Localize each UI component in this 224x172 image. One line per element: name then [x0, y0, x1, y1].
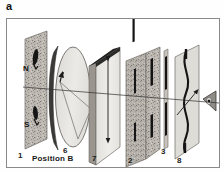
- component-speckled-plate-pair: [126, 19, 160, 167]
- figure-frame: N S 1 6 Position B 7 2 3 8: [6, 18, 220, 168]
- component-disk-lens: [49, 46, 91, 150]
- figure-panel: a: [0, 0, 224, 172]
- north-pole-label: N: [23, 65, 29, 73]
- panel-letter: a: [6, 1, 12, 12]
- component-label-2: 2: [128, 157, 132, 165]
- component-label-7: 7: [92, 155, 96, 163]
- position-b-label: Position B: [32, 155, 74, 163]
- component-magnet-plate: [25, 31, 47, 149]
- component-wavy-line-plate: [175, 45, 199, 159]
- observer-eye: [203, 91, 216, 111]
- component-label-1: 1: [18, 152, 22, 160]
- component-label-8: 8: [177, 157, 181, 165]
- component-label-3: 3: [161, 148, 165, 156]
- diagram-stage: N S 1 6 Position B 7 2 3 8: [7, 19, 219, 167]
- component-polarizer-plate: [89, 47, 120, 165]
- south-pole-label: S: [24, 121, 29, 129]
- diagram-svg: [7, 19, 219, 167]
